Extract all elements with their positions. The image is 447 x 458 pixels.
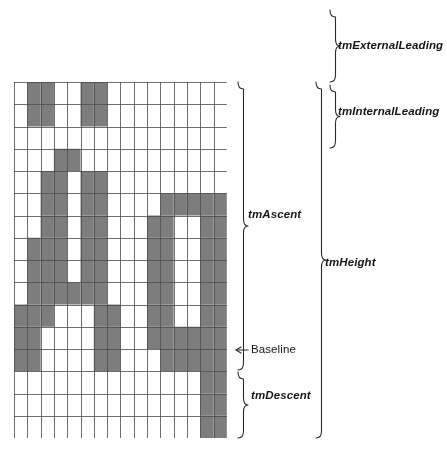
pixel-grid-canvas xyxy=(14,82,227,438)
brace-descent xyxy=(238,372,248,438)
label-tm-ascent: tmAscent xyxy=(248,208,301,220)
label-tm-height: tmHeight xyxy=(325,256,376,268)
pixel-grid xyxy=(14,82,227,438)
brace-ascent xyxy=(238,82,248,370)
diagram-canvas: tmExternalLeading tmInternalLeading tmAs… xyxy=(0,0,447,458)
label-tm-descent: tmDescent xyxy=(251,389,311,401)
label-tm-external-leading: tmExternalLeading xyxy=(338,39,443,51)
label-tm-internal-leading: tmInternalLeading xyxy=(338,105,439,117)
baseline-arrow-head xyxy=(236,347,241,353)
label-baseline: Baseline xyxy=(251,343,296,355)
